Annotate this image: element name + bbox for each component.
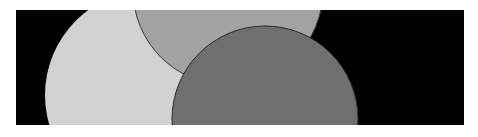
abstract-circles-image bbox=[16, 10, 464, 125]
circles-graphic bbox=[16, 10, 464, 125]
